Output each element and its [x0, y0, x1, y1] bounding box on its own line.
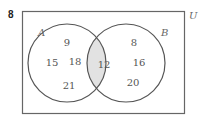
a-value-1: 9 — [64, 37, 70, 48]
universal-label: U — [189, 10, 198, 21]
intersection-value: 12 — [98, 59, 111, 70]
b-value-3: 20 — [127, 77, 140, 88]
a-value-4: 21 — [63, 80, 76, 91]
question-number: 8 — [8, 9, 14, 20]
venn-diagram: 8 U A B 9 15 18 21 12 8 16 20 — [0, 0, 199, 119]
set-a-label: A — [37, 27, 45, 38]
a-value-2: 15 — [46, 57, 59, 68]
a-value-3: 18 — [69, 56, 82, 67]
set-b-label: B — [160, 27, 168, 38]
b-value-2: 16 — [133, 57, 146, 68]
b-value-1: 8 — [131, 37, 137, 48]
